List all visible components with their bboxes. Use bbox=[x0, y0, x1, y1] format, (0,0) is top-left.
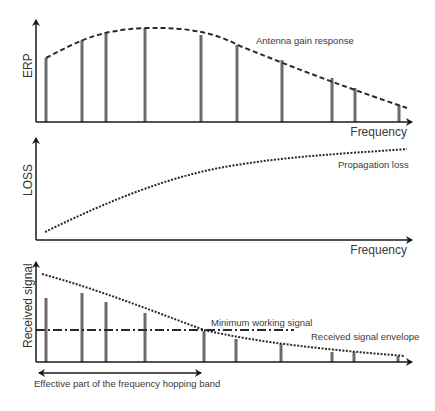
received-panel: Received signal Minimum working signal R… bbox=[21, 262, 419, 389]
erp-x-label: Frequency bbox=[350, 125, 407, 139]
effective-band-label: Effective part of the frequency hopping … bbox=[34, 378, 220, 389]
received-y-label: Received signal bbox=[21, 263, 35, 348]
received-signal-envelope bbox=[42, 274, 405, 356]
loss-panel: LOSS Frequency Propagation loss bbox=[21, 138, 412, 257]
received-envelope-label: Received signal envelope bbox=[311, 331, 419, 342]
loss-x-label: Frequency bbox=[350, 243, 407, 257]
frequency-hopping-diagram: ERP Frequency Antenna gain response LOSS… bbox=[0, 0, 435, 411]
erp-y-label: ERP bbox=[21, 53, 35, 78]
antenna-gain-label: Antenna gain response bbox=[256, 35, 354, 46]
minimum-working-signal-label: Minimum working signal bbox=[211, 317, 312, 328]
propagation-loss-label: Propagation loss bbox=[338, 159, 409, 170]
loss-y-label: LOSS bbox=[21, 164, 35, 196]
erp-panel: ERP Frequency Antenna gain response bbox=[21, 20, 412, 139]
